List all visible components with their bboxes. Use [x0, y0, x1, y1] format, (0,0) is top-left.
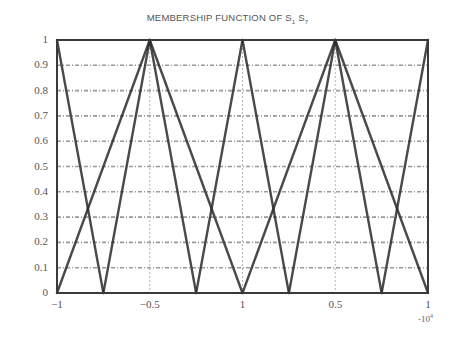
y-tick-label: 0.4	[4, 185, 48, 197]
y-tick-label: 0.5	[4, 160, 48, 172]
y-tick-label: 0.3	[4, 210, 48, 222]
membership-line	[103, 40, 149, 293]
grid-lines	[57, 40, 428, 293]
x-axis-multiplier: -104	[418, 313, 433, 324]
membership-function-chart: MEMBERSHIP FUNCTION OF S1 S7 00.10.20.30…	[0, 0, 455, 346]
x-tick-label: −0.5	[130, 298, 170, 310]
y-tick-label: 0	[4, 286, 48, 298]
y-tick-label: 0.9	[4, 58, 48, 70]
x-tick-label: 1	[223, 298, 263, 310]
x-tick-label: −1	[37, 298, 77, 310]
y-tick-label: 0.8	[4, 84, 48, 96]
y-tick-label: 1	[4, 33, 48, 45]
y-tick-label: 0.6	[4, 134, 48, 146]
membership-line	[382, 40, 428, 293]
x-tick-label: 0.5	[315, 298, 355, 310]
y-tick-label: 0.7	[4, 109, 48, 121]
y-tick-label: 0.1	[4, 261, 48, 273]
x-tick-label: 1	[408, 298, 448, 310]
plot-area	[0, 0, 455, 346]
y-tick-label: 0.2	[4, 235, 48, 247]
